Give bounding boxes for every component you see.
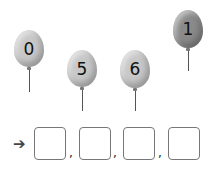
balloon-body: 6 [120, 50, 150, 88]
balloon-string [188, 51, 189, 71]
comma-separator: , [113, 146, 117, 160]
arrow-right-icon: ➔ [13, 135, 26, 153]
balloon-body: 5 [67, 50, 97, 87]
balloon-string [135, 91, 136, 111]
balloon-body: 1 [173, 10, 203, 48]
balloon-string [29, 70, 30, 92]
answer-box-4[interactable] [168, 127, 200, 160]
balloon-string [82, 90, 83, 111]
balloon-body: 0 [14, 30, 44, 67]
answer-box-2[interactable] [79, 127, 111, 160]
comma-separator: , [69, 146, 73, 160]
answer-box-3[interactable] [123, 127, 155, 160]
answer-box-1[interactable] [34, 127, 66, 160]
comma-separator: , [158, 146, 162, 160]
